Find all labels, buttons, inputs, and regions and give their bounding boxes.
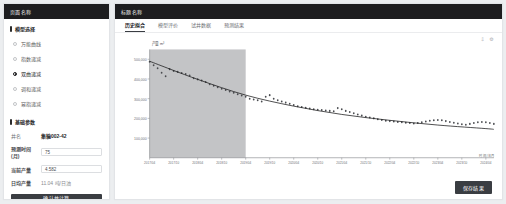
save-result-button[interactable]: 保存结果 xyxy=(455,181,492,194)
svg-text:2017/04: 2017/04 xyxy=(144,161,155,165)
sidebar-body: 模型选择 万能曲线 指数递减 双曲递减 调和递减 幂指递减 xyxy=(4,19,109,199)
param-row-well: 井名 集输002-42 xyxy=(4,129,109,142)
radio-option-0[interactable]: 万能曲线 xyxy=(4,36,109,51)
confirm-calculate-button[interactable]: 确认并计算 xyxy=(11,194,102,199)
svg-text:2021/04: 2021/04 xyxy=(336,161,347,165)
radio-option-3[interactable]: 调和递减 xyxy=(4,81,109,96)
svg-text:200,000: 200,000 xyxy=(134,117,146,121)
param-value-well: 集输002-42 xyxy=(41,132,67,139)
main-footer: 保存结果 xyxy=(115,177,502,199)
tab-well-test-data[interactable]: 试井数据 xyxy=(191,21,211,32)
svg-text:300,000: 300,000 xyxy=(134,97,146,101)
svg-text:2022/10: 2022/10 xyxy=(408,161,419,165)
tab-bar: 历史拟合 模型评价 试井数据 预测结果 xyxy=(115,19,502,33)
radio-icon xyxy=(13,102,17,106)
svg-text:2017/10: 2017/10 xyxy=(168,161,179,165)
radio-option-4[interactable]: 幂指递减 xyxy=(4,96,109,111)
svg-text:2022/04: 2022/04 xyxy=(384,161,395,165)
svg-text:时间/年月: 时间/年月 xyxy=(479,152,495,157)
main-header: 标题名称 xyxy=(115,4,502,19)
section-accent-bar xyxy=(10,26,12,32)
radio-option-label: 双曲递减 xyxy=(21,70,41,77)
svg-text:400,000: 400,000 xyxy=(134,78,146,82)
radio-icon xyxy=(13,42,17,46)
chart-container: ⇩ ⚙ 100,000200,000300,000400,000500,000产… xyxy=(115,33,502,177)
param-label-current-rate: 当前产量 xyxy=(11,166,37,173)
svg-text:2020/10: 2020/10 xyxy=(312,161,323,165)
main-header-title: 标题名称 xyxy=(121,8,143,15)
svg-text:2018/10: 2018/10 xyxy=(216,161,227,165)
svg-text:500,000: 500,000 xyxy=(134,58,146,62)
section-title-model: 模型选择 xyxy=(4,22,109,35)
param-value-daily-avg: 11.04 吨/日油 xyxy=(41,179,71,186)
current-rate-input[interactable]: 4.582 xyxy=(41,165,102,173)
tab-history-fit[interactable]: 历史拟合 xyxy=(125,21,145,32)
tab-prediction-result[interactable]: 预测结果 xyxy=(224,21,244,32)
radio-option-label: 万能曲线 xyxy=(21,40,41,47)
param-row-duration: 预测时间(月) 75 xyxy=(4,142,109,162)
svg-text:产量 m³: 产量 m³ xyxy=(152,40,165,46)
svg-text:2020/04: 2020/04 xyxy=(288,161,299,165)
svg-text:100,000: 100,000 xyxy=(134,137,146,141)
section-title-model-label: 模型选择 xyxy=(15,25,35,32)
param-label-duration: 预测时间(月) xyxy=(11,145,37,159)
radio-icon xyxy=(13,87,17,91)
svg-text:2024/04: 2024/04 xyxy=(480,161,491,165)
svg-text:2019/04: 2019/04 xyxy=(240,161,251,165)
app-root: 页面名称 模型选择 万能曲线 指数递减 双曲递减 调和递减 xyxy=(0,0,506,204)
radio-icon xyxy=(13,57,17,61)
radio-option-label: 幂指递减 xyxy=(21,100,41,107)
section-accent-bar xyxy=(10,119,12,125)
sidebar-panel: 页面名称 模型选择 万能曲线 指数递减 双曲递减 调和递减 xyxy=(3,3,110,200)
radio-option-1[interactable]: 指数递减 xyxy=(4,51,109,66)
sidebar-header: 页面名称 xyxy=(4,4,109,19)
param-label-daily-avg: 日均产量 xyxy=(11,179,37,186)
radio-option-label: 指数递减 xyxy=(21,55,41,62)
radio-option-2[interactable]: 双曲递减 xyxy=(4,66,109,81)
svg-text:2018/04: 2018/04 xyxy=(192,161,203,165)
param-label-well: 井名 xyxy=(11,132,37,139)
settings-icon[interactable]: ⚙ xyxy=(489,37,494,42)
tab-model-eval[interactable]: 模型评价 xyxy=(158,21,178,32)
svg-text:2023/04: 2023/04 xyxy=(432,161,443,165)
section-title-params-label: 基础参数 xyxy=(15,118,35,125)
radio-selected-icon xyxy=(13,72,17,76)
chart-toolbar: ⇩ ⚙ xyxy=(480,37,494,42)
param-row-current-rate: 当前产量 4.582 xyxy=(4,162,109,176)
duration-input[interactable]: 75 xyxy=(41,148,102,156)
svg-text:2021/10: 2021/10 xyxy=(360,161,371,165)
section-title-params: 基础参数 xyxy=(4,115,109,128)
main-panel: 标题名称 历史拟合 模型评价 试井数据 预测结果 ⇩ ⚙ 100,000200,… xyxy=(114,3,503,200)
sidebar-header-title: 页面名称 xyxy=(10,8,32,15)
svg-text:2023/10: 2023/10 xyxy=(456,161,467,165)
export-icon[interactable]: ⇩ xyxy=(480,37,485,42)
decline-curve-chart: 100,000200,000300,000400,000500,000产量 m³… xyxy=(115,35,502,177)
radio-option-label: 调和递减 xyxy=(21,85,41,92)
param-row-daily-avg: 日均产量 11.04 吨/日油 xyxy=(4,176,109,189)
svg-text:2019/10: 2019/10 xyxy=(264,161,275,165)
